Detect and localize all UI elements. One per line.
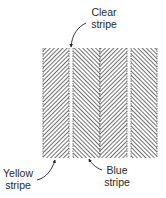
clear-stripe-label: Clear stripe (86, 6, 122, 30)
yellow-stripe (43, 48, 69, 158)
blue-stripe-label: Blue stripe (100, 164, 134, 188)
yellow-stripe-label: Yellow stripe (0, 167, 36, 191)
blue-stripe (131, 48, 157, 158)
blue-stripe (73, 48, 100, 158)
yellow-stripe-arrow (37, 160, 55, 180)
stripes (43, 48, 157, 158)
yellow-stripe (100, 48, 127, 158)
clear-stripe-arrow (71, 23, 86, 47)
